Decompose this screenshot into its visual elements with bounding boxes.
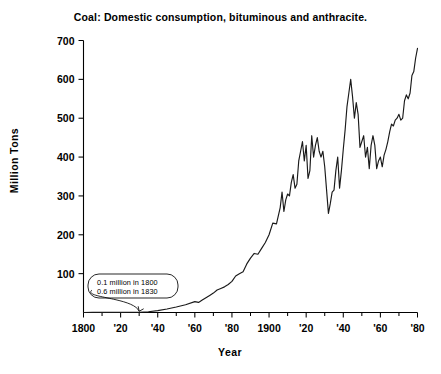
callout-line: 0.6 million in 1830 — [97, 287, 158, 296]
y-tick-label: 500 — [57, 112, 75, 124]
y-tick-label: 200 — [57, 229, 75, 241]
coal-consumption-series — [84, 48, 418, 312]
x-tick-label: '20 — [299, 322, 313, 334]
axis-lines — [84, 41, 418, 313]
x-tick-label: 1900 — [257, 322, 281, 334]
y-tick-label: 400 — [57, 151, 75, 163]
y-tick-label: 600 — [57, 73, 75, 85]
plot-area: 100200300400500600700 1800'20'40'60'8019… — [0, 0, 441, 374]
x-tick-label: '60 — [373, 322, 387, 334]
callout-arrowhead — [138, 306, 144, 311]
x-tick-label: '20 — [114, 322, 128, 334]
x-tick-label: '60 — [188, 322, 202, 334]
x-tick-label: 1800 — [72, 322, 96, 334]
y-axis-ticks: 100200300400500600700 — [57, 35, 84, 280]
y-tick-label: 300 — [57, 190, 75, 202]
y-tick-label: 700 — [57, 35, 75, 47]
x-tick-label: '40 — [151, 322, 165, 334]
x-tick-label: '40 — [336, 322, 350, 334]
y-tick-label: 100 — [57, 268, 75, 280]
callout-line: 0.1 million in 1800 — [97, 278, 158, 287]
annotation-callout: 0.1 million in 18000.6 million in 1830 — [88, 274, 178, 311]
x-axis-ticks: 1800'20'40'60'801900'20'40'60'80 — [72, 313, 425, 334]
x-tick-label: '80 — [410, 322, 424, 334]
chart-figure: Coal: Domestic consumption, bituminous a… — [0, 0, 441, 374]
x-tick-label: '80 — [225, 322, 239, 334]
